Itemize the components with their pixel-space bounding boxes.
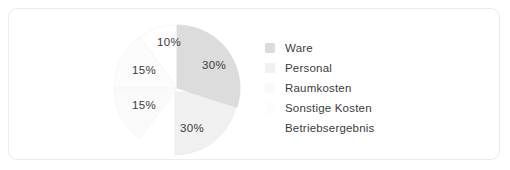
legend-item-ware[interactable]: Ware bbox=[265, 38, 465, 58]
legend-swatch-icon bbox=[265, 83, 275, 93]
slice-value-personal: 30% bbox=[180, 122, 204, 134]
legend-item-label: Betriebsergebnis bbox=[285, 122, 375, 134]
legend-swatch-icon bbox=[265, 63, 275, 73]
chart-legend: Ware Personal Raumkosten Sonstige Kosten… bbox=[265, 38, 465, 138]
slice-value-betriebsergebnis: 10% bbox=[157, 36, 181, 48]
pie-slice-raumkosten[interactable] bbox=[114, 88, 177, 139]
screenshot-root: 10% 15% 15% 30% 30% Ware Personal Raumko… bbox=[0, 0, 510, 170]
legend-swatch-icon bbox=[265, 123, 275, 133]
slice-value-raumkosten: 15% bbox=[132, 99, 156, 111]
legend-item-betriebsergebnis[interactable]: Betriebsergebnis bbox=[265, 118, 465, 138]
legend-item-label: Raumkosten bbox=[285, 82, 352, 94]
legend-item-label: Personal bbox=[285, 62, 332, 74]
legend-swatch-icon bbox=[265, 103, 275, 113]
legend-item-label: Sonstige Kosten bbox=[285, 102, 372, 114]
legend-item-label: Ware bbox=[285, 42, 313, 54]
slice-value-ware: 30% bbox=[202, 59, 226, 71]
legend-swatch-icon bbox=[265, 43, 275, 53]
slice-value-sonstige-kosten: 15% bbox=[132, 64, 156, 76]
pie-chart: 10% 15% 15% 30% 30% Ware Personal Raumko… bbox=[0, 0, 510, 170]
legend-item-raumkosten[interactable]: Raumkosten bbox=[265, 78, 465, 98]
legend-item-personal[interactable]: Personal bbox=[265, 58, 465, 78]
legend-item-sonstige-kosten[interactable]: Sonstige Kosten bbox=[265, 98, 465, 118]
